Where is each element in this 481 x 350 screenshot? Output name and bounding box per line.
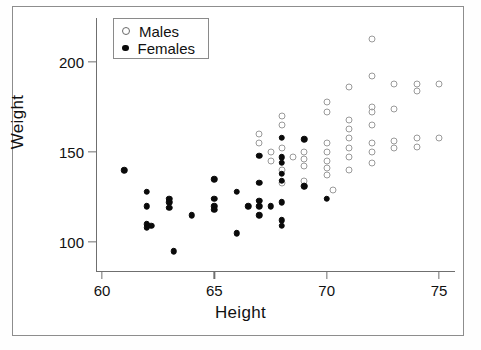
- data-point-females: [234, 230, 241, 237]
- data-point-males: [391, 138, 398, 145]
- data-point-males: [323, 158, 330, 165]
- y-tick-label: 200: [44, 54, 84, 71]
- data-point-females: [234, 188, 241, 195]
- data-point-males: [323, 140, 330, 147]
- data-point-males: [368, 109, 375, 116]
- data-point-males: [323, 165, 330, 172]
- x-tick-label: 75: [431, 282, 448, 299]
- data-point-females: [144, 188, 151, 195]
- data-point-males: [323, 98, 330, 105]
- data-point-males: [413, 80, 420, 87]
- data-point-males: [391, 105, 398, 112]
- data-point-males: [346, 134, 353, 141]
- data-point-males: [391, 80, 398, 87]
- data-point-males: [346, 125, 353, 132]
- data-point-males: [346, 145, 353, 152]
- data-point-males: [368, 122, 375, 129]
- data-point-males: [346, 84, 353, 91]
- data-point-females: [278, 160, 285, 167]
- data-point-females: [256, 179, 263, 186]
- x-tick-mark: [326, 272, 327, 279]
- data-point-females: [211, 196, 218, 203]
- y-tick-mark: [88, 241, 96, 242]
- data-point-males: [323, 172, 330, 179]
- data-point-females: [256, 203, 263, 210]
- y-tick-label: 100: [44, 234, 84, 251]
- open-circle-icon: [122, 27, 130, 35]
- data-point-males: [436, 134, 443, 141]
- x-tick-label: 60: [94, 282, 111, 299]
- data-point-males: [301, 149, 308, 156]
- data-point-males: [267, 158, 274, 165]
- data-point-females: [189, 212, 196, 219]
- data-point-males: [323, 109, 330, 116]
- legend-label-males: Males: [139, 24, 179, 39]
- data-point-females: [166, 205, 173, 212]
- data-point-males: [346, 116, 353, 123]
- legend-label-females: Females: [138, 41, 196, 56]
- x-tick-mark: [214, 272, 215, 279]
- data-point-females: [256, 152, 263, 159]
- data-point-females: [301, 136, 308, 143]
- data-point-females: [144, 203, 151, 210]
- data-point-males: [368, 149, 375, 156]
- y-tick-label: 150: [44, 144, 84, 161]
- data-point-males: [301, 156, 308, 163]
- data-point-females: [121, 167, 128, 174]
- data-point-females: [278, 223, 285, 230]
- filled-circle-icon: [122, 45, 129, 52]
- data-point-males: [256, 131, 263, 138]
- legend-entry-males: Males: [122, 22, 179, 40]
- data-point-males: [368, 35, 375, 42]
- data-point-males: [413, 87, 420, 94]
- data-point-females: [278, 178, 285, 185]
- scatter-plot-screenshot: 60657075100150200 Height Weight Males Fe…: [0, 0, 481, 350]
- data-point-females: [211, 206, 218, 213]
- data-point-males: [301, 163, 308, 170]
- data-point-males: [278, 113, 285, 120]
- data-point-females: [256, 212, 263, 219]
- data-point-females: [211, 176, 218, 183]
- x-tick-mark: [438, 272, 439, 279]
- data-point-females: [278, 170, 285, 177]
- data-point-females: [278, 199, 285, 206]
- data-point-males: [413, 134, 420, 141]
- y-axis-title: Weight: [8, 72, 28, 172]
- data-point-males: [436, 80, 443, 87]
- x-tick-label: 70: [318, 282, 335, 299]
- data-point-females: [171, 248, 178, 255]
- y-tick-mark: [88, 61, 96, 62]
- data-point-females: [245, 203, 252, 210]
- data-point-males: [346, 154, 353, 161]
- data-point-females: [278, 134, 285, 141]
- data-point-males: [278, 145, 285, 152]
- data-point-females: [267, 203, 274, 210]
- legend-box: Males Females: [113, 18, 209, 59]
- data-point-males: [368, 140, 375, 147]
- data-point-males: [330, 186, 337, 193]
- data-point-males: [391, 145, 398, 152]
- data-point-males: [289, 154, 296, 161]
- data-point-males: [323, 149, 330, 156]
- data-point-females: [148, 223, 155, 230]
- data-point-males: [413, 143, 420, 150]
- data-point-males: [346, 167, 353, 174]
- x-tick-label: 65: [206, 282, 223, 299]
- y-tick-mark: [88, 151, 96, 152]
- data-point-males: [368, 159, 375, 166]
- data-point-males: [368, 73, 375, 80]
- data-point-females: [323, 196, 330, 203]
- legend-entry-females: Females: [122, 39, 195, 57]
- data-point-males: [256, 140, 263, 147]
- x-axis-title: Height: [0, 303, 481, 323]
- x-tick-mark: [101, 272, 102, 279]
- data-point-males: [278, 122, 285, 129]
- data-point-males: [267, 149, 274, 156]
- data-point-females: [301, 183, 308, 190]
